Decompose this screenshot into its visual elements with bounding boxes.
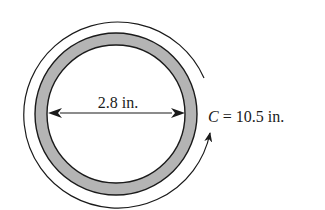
circumference-arc: [24, 22, 210, 208]
circle-diagram: 2.8 in. C = 10.5 in.: [0, 0, 325, 210]
diameter-label: 2.8 in.: [98, 94, 138, 111]
ring: [35, 33, 197, 195]
circumference-value: = 10.5 in.: [219, 108, 284, 125]
circumference-label: C = 10.5 in.: [208, 108, 284, 125]
circumference-variable: C: [208, 108, 219, 125]
